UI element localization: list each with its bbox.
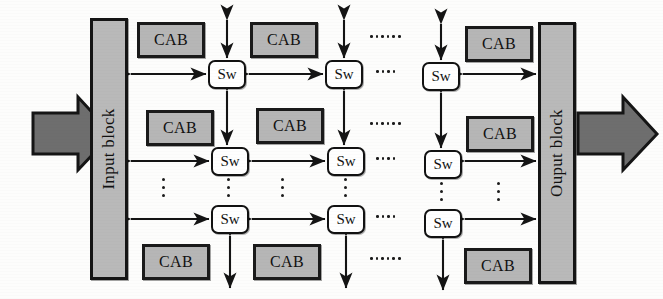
vertical-ellipsis	[344, 178, 347, 197]
input-block-label: Input block	[99, 108, 119, 189]
switch-node: Sw	[211, 147, 249, 176]
cab-cell: CAB	[256, 108, 324, 144]
switch-node: Sw	[208, 60, 246, 89]
output-block: Ouput block	[538, 22, 576, 284]
horizontal-ellipsis	[370, 122, 401, 125]
horizontal-ellipsis	[370, 257, 401, 260]
output-block-label: Ouput block	[547, 109, 567, 197]
cab-cell: CAB	[466, 116, 534, 152]
switch-node: Sw	[211, 205, 249, 234]
horizontal-ellipsis	[370, 35, 401, 38]
cab-cell: CAB	[137, 22, 205, 58]
vertical-ellipsis	[227, 178, 230, 197]
vertical-ellipsis	[440, 182, 443, 201]
switch-node: Sw	[327, 147, 365, 176]
cab-cell: CAB	[465, 26, 533, 62]
horizontal-ellipsis	[376, 157, 395, 160]
cab-cell: CAB	[464, 248, 532, 284]
switch-node: Sw	[327, 205, 365, 234]
switch-node: Sw	[424, 209, 462, 238]
vertical-ellipsis	[162, 178, 165, 197]
switch-node: Sw	[424, 150, 462, 179]
horizontal-ellipsis	[376, 215, 395, 218]
vertical-ellipsis	[497, 182, 500, 201]
cab-cell: CAB	[146, 110, 214, 146]
vertical-ellipsis	[281, 178, 284, 197]
cab-cell: CAB	[250, 22, 318, 58]
cab-cell: CAB	[142, 244, 210, 280]
cab-cell: CAB	[253, 244, 321, 280]
output-flow-arrow	[578, 97, 657, 170]
input-block: Input block	[90, 18, 128, 280]
switch-node: Sw	[325, 60, 363, 89]
switch-node: Sw	[422, 62, 460, 91]
architecture-diagram: Input block Ouput block CAB CAB CAB CAB …	[0, 0, 663, 299]
horizontal-ellipsis	[376, 70, 395, 73]
